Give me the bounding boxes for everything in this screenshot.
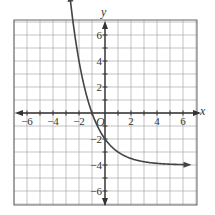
x-tick-label: −4 [47, 115, 59, 127]
y-tick-label: 6 [97, 29, 103, 41]
x-tick-label: 4 [154, 115, 160, 127]
y-tick-label: 2 [97, 81, 103, 93]
x-tick-label: 2 [128, 115, 134, 127]
x-axis-label: x [199, 104, 206, 118]
exponential-curve [70, 0, 190, 165]
y-tick-label: −4 [90, 159, 102, 171]
x-tick-label: 6 [180, 115, 186, 127]
x-tick-label: −6 [21, 115, 33, 127]
y-tick-label: −2 [90, 133, 102, 145]
coordinate-graph: −6−4−2246642−2−4−6 x y O [0, 0, 215, 215]
curve-arrow-right [184, 162, 192, 168]
y-tick-label: −6 [90, 185, 102, 197]
curve-arrowheads [68, 0, 192, 168]
y-axis-label: y [100, 5, 107, 19]
y-tick-label: 4 [97, 55, 103, 67]
x-tick-label: −2 [73, 115, 85, 127]
